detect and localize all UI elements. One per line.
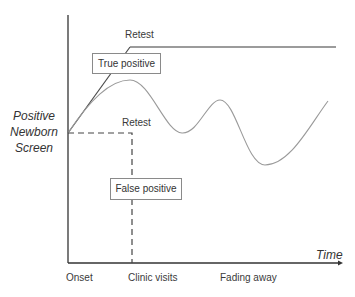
true-positive-box: True positive — [92, 53, 161, 74]
retest-top-label: Retest — [125, 29, 154, 40]
x-tick-clinic-visits: Clinic visits — [128, 272, 177, 283]
y-axis-label-line-1: Positive — [2, 108, 66, 124]
retest-bottom-label: Retest — [122, 117, 151, 128]
x-axis-label: Time — [316, 248, 343, 262]
fading-away-curve — [68, 80, 328, 165]
y-axis-label: Positive Newborn Screen — [2, 108, 66, 156]
false-positive-box: False positive — [110, 178, 182, 200]
y-axis-label-line-3: Screen — [2, 140, 66, 156]
x-tick-onset: Onset — [66, 272, 93, 283]
y-axis-label-line-2: Newborn — [2, 124, 66, 140]
x-tick-fading-away: Fading away — [220, 272, 277, 283]
